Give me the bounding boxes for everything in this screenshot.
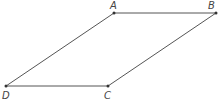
point-d — [5, 85, 8, 88]
segment-bc — [108, 13, 216, 86]
segment-da — [6, 13, 114, 86]
parallelogram-diagram: A B C D — [0, 0, 219, 105]
point-c — [107, 85, 110, 88]
point-b — [215, 12, 218, 15]
diagram-svg: A B C D — [0, 0, 219, 105]
point-a — [113, 12, 116, 15]
label-a: A — [109, 0, 117, 11]
label-b: B — [208, 0, 215, 11]
label-c: C — [104, 90, 111, 101]
label-d: D — [2, 90, 10, 101]
